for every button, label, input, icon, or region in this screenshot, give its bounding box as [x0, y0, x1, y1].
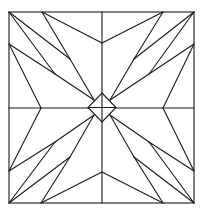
quadrant-top-right [102, 12, 194, 108]
quilt-block-drawing [0, 0, 205, 219]
quadrant-bottom-left [9, 108, 102, 203]
quadrant-top-left [9, 12, 102, 108]
quadrant-bottom-right [102, 108, 194, 203]
